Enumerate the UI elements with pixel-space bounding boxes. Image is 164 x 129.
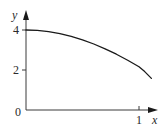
y-tick-label-2: 2 xyxy=(13,64,19,76)
y-axis-arrow-icon xyxy=(23,10,29,20)
function-curve xyxy=(26,30,151,78)
function-graph xyxy=(0,0,164,129)
x-tick-label-1: 1 xyxy=(136,114,142,126)
y-axis-label: y xyxy=(12,9,17,21)
x-axis-label: x xyxy=(152,114,157,126)
origin-label: 0 xyxy=(15,106,21,118)
y-tick-label-4: 4 xyxy=(13,24,19,36)
y-axis-ticks xyxy=(22,30,26,70)
